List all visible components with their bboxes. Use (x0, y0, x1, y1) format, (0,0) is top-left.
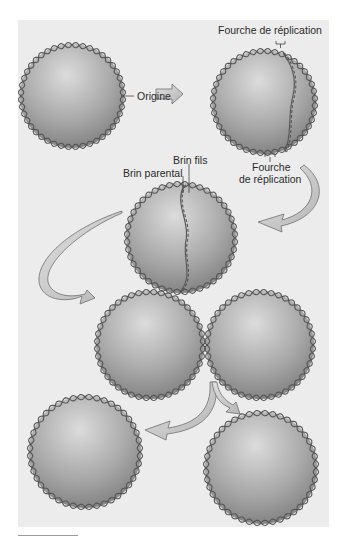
daughter-cell-right-separated (204, 411, 319, 526)
label-fork-bottom-line2: de réplication (239, 174, 301, 185)
label-fork-bottom-line1: Fourche (252, 162, 291, 173)
replication-diagram (0, 0, 344, 540)
label-daughter-strand: Brin fils (173, 155, 207, 166)
label-origin: Origine (137, 91, 171, 102)
daughter-cell-right-joined (205, 290, 316, 401)
label-parent-strand: Brin parental (123, 168, 183, 179)
cell-replication-advanced (125, 182, 238, 295)
daughter-cell-left-joined (95, 290, 206, 401)
footnote-divider (18, 535, 78, 536)
curved-arrow-down-right-icon (39, 211, 122, 304)
cell-origin (19, 43, 126, 150)
cell-replication-start (211, 49, 318, 156)
daughter-cell-left-separated (28, 395, 143, 510)
label-fork-top: Fourche de réplication (218, 25, 322, 36)
